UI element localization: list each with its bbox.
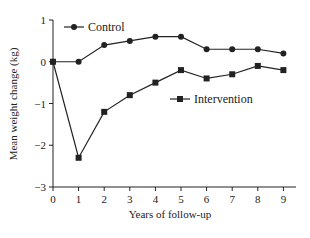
series-line-intervention xyxy=(53,62,283,158)
data-point-control xyxy=(152,34,158,40)
x-tick-label: 3 xyxy=(127,193,133,205)
x-tick-label: 9 xyxy=(281,193,287,205)
legend-item-control: Control xyxy=(64,20,125,34)
x-tick-label: 6 xyxy=(204,193,210,205)
y-tick-label: −2 xyxy=(34,139,46,151)
legend-label-control: Control xyxy=(88,20,125,34)
data-point-control xyxy=(76,59,82,65)
data-point-intervention xyxy=(50,59,56,65)
y-axis-title: Mean weight change (kg) xyxy=(7,47,20,160)
x-tick-label: 2 xyxy=(101,193,107,205)
line-chart: 10−1−2−30123456789 Control Intervention … xyxy=(0,0,310,238)
axes: 10−1−2−30123456789 xyxy=(34,14,296,205)
legend-item-intervention: Intervention xyxy=(170,92,253,106)
data-point-intervention xyxy=(229,71,235,77)
data-point-intervention xyxy=(204,75,210,81)
data-point-intervention xyxy=(178,67,184,73)
x-axis-title: Years of follow-up xyxy=(129,208,212,220)
circle-marker-icon xyxy=(71,24,77,30)
x-tick-label: 4 xyxy=(153,193,159,205)
x-tick-label: 8 xyxy=(255,193,261,205)
data-point-intervention xyxy=(101,109,107,115)
y-tick-label: −1 xyxy=(34,98,46,110)
data-point-control xyxy=(229,46,235,52)
series-line-control xyxy=(53,37,283,62)
data-point-control xyxy=(101,42,107,48)
data-point-control xyxy=(127,38,133,44)
x-tick-label: 0 xyxy=(50,193,56,205)
y-tick-label: 0 xyxy=(41,56,47,68)
data-point-intervention xyxy=(152,80,158,86)
data-point-intervention xyxy=(280,67,286,73)
data-point-intervention xyxy=(255,63,261,69)
data-point-control xyxy=(178,34,184,40)
data-point-control xyxy=(255,46,261,52)
data-point-control xyxy=(280,50,286,56)
x-tick-label: 5 xyxy=(178,193,184,205)
x-tick-label: 1 xyxy=(76,193,82,205)
y-tick-label: 1 xyxy=(41,14,47,26)
y-tick-label: −3 xyxy=(34,181,46,193)
square-marker-icon xyxy=(177,96,183,102)
data-point-intervention xyxy=(76,155,82,161)
data-point-intervention xyxy=(127,92,133,98)
legend: Control Intervention xyxy=(64,20,253,106)
data-point-control xyxy=(204,46,210,52)
x-tick-label: 7 xyxy=(229,193,235,205)
legend-label-intervention: Intervention xyxy=(194,92,253,106)
